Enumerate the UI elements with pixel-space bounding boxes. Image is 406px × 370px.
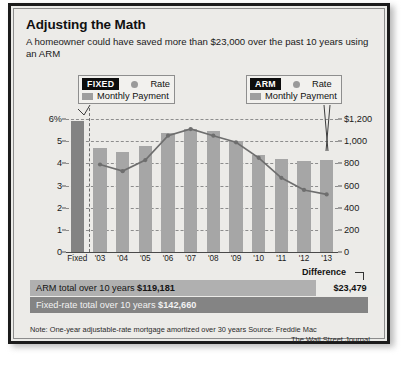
x-axis-label: '08 — [208, 254, 219, 263]
y-axis-tick-right: 400 — [344, 203, 359, 213]
y-tick-mark — [62, 252, 66, 253]
rate-data-point — [189, 127, 193, 131]
y-tick-mark — [62, 207, 66, 208]
legend-fixed-rate-row: FIXED Rate — [79, 76, 174, 90]
rate-data-point — [143, 158, 147, 162]
page-title: Adjusting the Math — [26, 17, 146, 32]
rate-line-path — [100, 129, 327, 194]
x-axis-label: '11 — [276, 254, 286, 263]
y-tick-mark — [62, 229, 66, 230]
y-tick-mark — [62, 119, 66, 120]
rate-data-point — [211, 134, 215, 138]
fixed-total-bar: Fixed-rate total over 10 years $142,660 — [30, 297, 368, 313]
legend-arm-rate-label: Rate — [312, 79, 332, 89]
y-tick-mark — [338, 229, 342, 230]
y-tick-mark — [338, 163, 342, 164]
y-tick-mark — [338, 141, 342, 142]
fixed-total-text: Fixed-rate total over 10 years $142,660 — [30, 300, 196, 310]
rate-marker-icon — [293, 81, 300, 88]
y-tick-mark — [338, 252, 342, 253]
rate-data-point — [98, 162, 102, 166]
infographic-panel: Adjusting the Math A homeowner could hav… — [8, 3, 390, 344]
x-axis-label: '12 — [299, 254, 310, 263]
y-axis-tick-right: 800 — [344, 158, 359, 168]
y-tick-mark — [338, 119, 342, 120]
fixed-total-value: $142,660 — [158, 300, 196, 310]
y-axis-tick-right: $1,200 — [344, 114, 372, 124]
arm-total-text: ARM total over 10 years $119,181 — [30, 283, 175, 293]
chart-canvas — [66, 108, 338, 252]
rate-data-point — [166, 134, 170, 138]
x-axis-label: '04 — [117, 254, 128, 263]
y-tick-mark — [338, 185, 342, 186]
y-axis-tick-left: 6% — [49, 114, 62, 124]
rate-data-point — [257, 156, 261, 160]
x-axis-label: '13 — [321, 254, 332, 263]
rate-line-series — [66, 108, 338, 252]
difference-label: Difference — [302, 267, 346, 277]
y-tick-mark — [62, 141, 66, 142]
y-axis-tick-right: 600 — [344, 181, 359, 191]
page-subtitle: A homeowner could have saved more than $… — [26, 36, 374, 61]
difference-value: $23,479 — [333, 283, 366, 293]
chart-plot-area: 0123456%02004006008001,000$1,200Fixed'03… — [66, 108, 338, 252]
infographic-inner-border: Adjusting the Math A homeowner could hav… — [13, 8, 385, 339]
x-axis-label: '05 — [140, 254, 151, 263]
arm-total-value: $119,181 — [137, 283, 175, 293]
footnote: Note: One-year adjustable-rate mortgage … — [30, 325, 317, 335]
legend-fixed-tag: FIXED — [82, 78, 119, 90]
legend-fixed-payment-row: Monthly Payment — [79, 90, 174, 103]
x-axis-label: '07 — [185, 254, 196, 263]
legend-arm-rate-row: ARM Rate — [247, 76, 341, 90]
x-axis-label: Fixed — [67, 254, 87, 263]
rate-data-point — [302, 188, 306, 192]
payment-swatch-icon — [250, 93, 261, 100]
rate-data-point — [121, 169, 125, 173]
x-axis-label: '03 — [95, 254, 106, 263]
y-axis-tick-right: 0 — [344, 247, 349, 257]
legend-fixed: FIXED Rate Monthly Payment — [78, 75, 175, 104]
legend-arm-tag: ARM — [250, 78, 281, 90]
y-axis-tick-right: 200 — [344, 225, 359, 235]
y-tick-mark — [62, 185, 66, 186]
legend-fixed-rate-label: Rate — [150, 79, 170, 89]
x-axis-label: '09 — [231, 254, 242, 263]
rate-marker-icon — [131, 81, 138, 88]
legend-arm-payment-label: Monthly Payment — [265, 91, 337, 101]
difference-value-box: $23,479 — [316, 280, 384, 296]
payment-swatch-icon — [82, 93, 93, 100]
x-axis-line — [66, 252, 338, 253]
rate-data-point — [325, 192, 329, 196]
x-axis-label: '10 — [253, 254, 264, 263]
legend-fixed-payment-label: Monthly Payment — [97, 91, 169, 101]
source-credit: The Wall Street Journal — [291, 335, 370, 344]
y-tick-mark — [338, 207, 342, 208]
y-axis-tick-right: 1,000 — [344, 136, 367, 146]
x-axis-label: '06 — [163, 254, 174, 263]
legend-arm: ARM Rate Monthly Payment — [246, 75, 342, 104]
y-tick-mark — [62, 163, 66, 164]
rate-data-point — [234, 140, 238, 144]
rate-data-point — [279, 176, 283, 180]
legend-arm-payment-row: Monthly Payment — [247, 90, 341, 103]
